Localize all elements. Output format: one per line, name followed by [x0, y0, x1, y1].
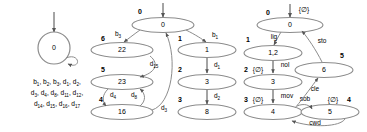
panel-middle: 0 0 1 1 3 2 8 3 22 6 23 5 16 4 b1 d1	[91, 3, 236, 120]
right-edge-mov-label: mov	[281, 92, 294, 99]
left-caption-line-3: d14, d15, d16, d17	[34, 100, 81, 109]
middle-edge-d4	[103, 89, 108, 106]
right-node-3-index: 2	[244, 66, 248, 73]
right-node-3-mark: {∅}	[253, 66, 264, 74]
right-edge-cwd-label: cwd	[309, 119, 321, 126]
middle-edge-d4-label: d4	[110, 91, 117, 100]
middle-node-0-index: 0	[138, 8, 142, 15]
middle-edge-d3	[152, 33, 172, 110]
middle-edge-d3-label: d3	[161, 104, 168, 113]
right-edge-lig-label: lig	[271, 33, 278, 41]
left-caption-line-1: b1, b2, b3, d1, d2,	[33, 78, 81, 87]
middle-edge-d2-label: d2	[214, 92, 221, 101]
middle-edge-b1-label: b1	[212, 31, 219, 40]
right-node-6-index: 5	[340, 52, 344, 59]
right-node-5-index: 4	[347, 96, 351, 103]
middle-node-23-index: 5	[101, 66, 105, 73]
middle-node-16-state: 16	[118, 108, 126, 115]
automata-figure: 0 b1, b2, b3, d1, d2, d3, d4, d8, d11, d…	[0, 0, 367, 132]
right-node-4-mark: {∅}	[253, 96, 264, 104]
middle-node-3-state: 3	[205, 78, 209, 85]
right-edge-sob-label: sob	[300, 95, 311, 102]
right-node-4-index: 3	[244, 96, 248, 103]
left-caption-line-2: d3, d4, d8, d11, d12,	[31, 89, 84, 98]
middle-edge-d8-label: d8	[131, 91, 138, 100]
right-start-label: {∅}	[299, 6, 310, 14]
middle-node-8-state: 8	[205, 108, 209, 115]
middle-node-8-index: 3	[178, 96, 182, 103]
right-node-0-index: 0	[266, 9, 270, 16]
middle-node-3-index: 2	[178, 66, 182, 73]
middle-edge-d8	[140, 89, 145, 106]
left-node-0-label: 0	[52, 44, 56, 51]
middle-edge-d1-label: d1	[214, 61, 221, 70]
right-node-6-state: 6	[322, 66, 326, 73]
right-node-3-state: 3	[271, 78, 275, 85]
right-node-1-2-state: 1,2	[268, 49, 278, 56]
middle-edge-b1	[186, 30, 206, 42]
right-edge-sto	[302, 31, 322, 62]
right-node-5-mark: {∅}	[328, 96, 339, 104]
middle-node-23-state: 23	[118, 78, 126, 85]
middle-node-22-index: 6	[101, 35, 105, 42]
right-edge-sto-label: sto	[318, 37, 327, 44]
right-node-5-state: 5	[328, 108, 332, 115]
panel-right: {∅} 0 0 1,2 1 3 2 {∅} 4 3 {∅} 5 4 {∅} 6 …	[244, 4, 359, 126]
panel-left: 0 b1, b2, b3, d1, d2, d3, d4, d8, d11, d…	[31, 12, 84, 109]
right-node-4-state: 4	[271, 108, 275, 115]
middle-edge-b3-label: b3	[115, 30, 122, 39]
right-node-0-state: 0	[288, 21, 292, 28]
middle-node-0-state: 0	[161, 21, 165, 28]
middle-edge-b3	[124, 30, 140, 42]
middle-node-16-index: 4	[99, 96, 103, 103]
right-edge-nol-label: nol	[281, 61, 290, 68]
left-self-loop	[66, 57, 78, 65]
middle-node-1-index: 1	[178, 35, 182, 42]
right-edge-cle-label: cle	[311, 85, 320, 92]
middle-node-22-state: 22	[118, 46, 126, 53]
right-node-1-2-index: 1	[246, 36, 250, 43]
middle-node-1-state: 1	[205, 46, 209, 53]
